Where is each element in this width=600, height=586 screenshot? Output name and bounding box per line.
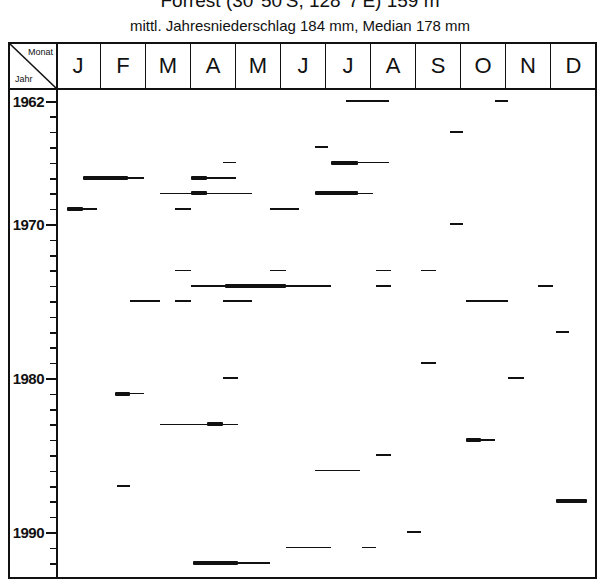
- year-tick: [50, 347, 56, 349]
- year-tick: [50, 286, 56, 288]
- rain-event-segment: [160, 424, 207, 426]
- rain-event-segment: [223, 162, 237, 164]
- month-column-header: J: [56, 44, 101, 88]
- rain-event-segment: [130, 393, 144, 395]
- rain-event-segment: [556, 499, 588, 503]
- rain-event-segment: [376, 454, 392, 456]
- rain-event-segment: [331, 161, 358, 165]
- year-tick: [50, 240, 56, 242]
- year-tick: [50, 501, 56, 503]
- rain-event-segment: [175, 300, 191, 302]
- year-tick: [50, 332, 56, 334]
- year-tick: [50, 255, 56, 257]
- month-column-header: F: [101, 44, 146, 88]
- rain-event-segment: [83, 176, 128, 180]
- rain-event-segment: [115, 392, 131, 396]
- year-axis-label: Jahr: [15, 74, 33, 84]
- year-tick: [50, 548, 56, 550]
- month-column-header: S: [416, 44, 461, 88]
- year-tick: [50, 132, 56, 134]
- rain-event-segment: [223, 377, 239, 379]
- rain-event-segment: [466, 300, 509, 302]
- rain-event-segment: [175, 208, 191, 210]
- month-column-header: D: [551, 44, 596, 88]
- year-label: 1980: [13, 370, 44, 387]
- rain-event-segment: [407, 531, 421, 533]
- rain-event-segment: [286, 547, 331, 549]
- rain-event-segment: [376, 285, 392, 287]
- rain-event-segment: [160, 193, 192, 195]
- rain-event-segment: [223, 424, 239, 426]
- year-tick: [50, 563, 56, 565]
- rain-event-segment: [495, 100, 509, 102]
- month-column-header: J: [326, 44, 371, 88]
- rain-event-segment: [225, 284, 286, 288]
- year-tick: [50, 163, 56, 165]
- rain-event-segment: [358, 162, 390, 164]
- rain-event-segment: [191, 191, 207, 195]
- month-column-header: J: [281, 44, 326, 88]
- rain-event-segment: [315, 146, 329, 148]
- rain-event-segment: [315, 470, 360, 472]
- month-column-header: O: [461, 44, 506, 88]
- rain-event-segment: [238, 562, 270, 564]
- rain-event-segment: [358, 193, 374, 195]
- year-tick: [50, 517, 56, 519]
- year-tick: [50, 471, 56, 473]
- rain-event-segment: [207, 177, 236, 179]
- year-tick: [50, 209, 56, 211]
- year-tick: [50, 270, 56, 272]
- year-tick: [50, 301, 56, 303]
- rain-event-segment: [207, 422, 223, 426]
- rain-event-segment: [421, 362, 437, 364]
- rain-event-segment: [362, 547, 376, 549]
- year-tick: [50, 440, 56, 442]
- year-tick: [50, 455, 56, 457]
- year-tick: [50, 116, 56, 118]
- year-tick: [50, 193, 56, 195]
- year-tick: [46, 378, 56, 380]
- month-column-header: M: [146, 44, 191, 88]
- year-axis: 1962197019801990: [10, 88, 58, 577]
- year-tick: [46, 224, 56, 226]
- rain-event-segment: [315, 191, 358, 195]
- rain-event-segment: [421, 270, 437, 272]
- year-tick: [50, 363, 56, 365]
- rain-event-segment: [286, 285, 331, 287]
- rain-event-segment: [481, 439, 495, 441]
- year-tick: [50, 486, 56, 488]
- rain-event-segment: [270, 208, 299, 210]
- rain-event-segment: [207, 193, 252, 195]
- chart-subtitle: mittl. Jahresniederschlag 184 mm, Median…: [0, 17, 600, 34]
- rain-event-segment: [508, 377, 524, 379]
- precipitation-chart-table: Monat Jahr JFMAMJJASOND 1962197019801990: [8, 42, 597, 579]
- month-axis-label: Monat: [28, 47, 53, 57]
- year-tick: [50, 178, 56, 180]
- year-tick: [50, 317, 56, 319]
- rain-event-segment: [538, 285, 554, 287]
- year-label: 1970: [13, 216, 44, 233]
- year-tick: [46, 101, 56, 103]
- rain-event-segment: [193, 561, 238, 565]
- rain-event-segment: [223, 300, 252, 302]
- rain-event-segment: [191, 176, 207, 180]
- rain-event-segment: [191, 285, 225, 287]
- rain-event-segment: [450, 131, 464, 133]
- month-column-header: A: [191, 44, 236, 88]
- rain-event-segment: [128, 177, 144, 179]
- rain-event-segment: [130, 300, 159, 302]
- year-tick: [50, 424, 56, 426]
- year-tick: [50, 147, 56, 149]
- rain-event-segment: [376, 270, 392, 272]
- year-tick: [50, 394, 56, 396]
- month-header-row: Monat Jahr JFMAMJJASOND: [10, 44, 595, 90]
- year-tick: [50, 409, 56, 411]
- month-column-header: A: [371, 44, 416, 88]
- rain-event-segment: [466, 438, 482, 442]
- chart-title: Forrest (30°50'S, 128°7'E) 159 m: [0, 0, 600, 12]
- rain-event-segment: [67, 207, 83, 211]
- rain-event-segment: [83, 208, 97, 210]
- year-label: 1990: [13, 524, 44, 541]
- year-label: 1962: [13, 93, 44, 110]
- rain-event-segment: [556, 331, 570, 333]
